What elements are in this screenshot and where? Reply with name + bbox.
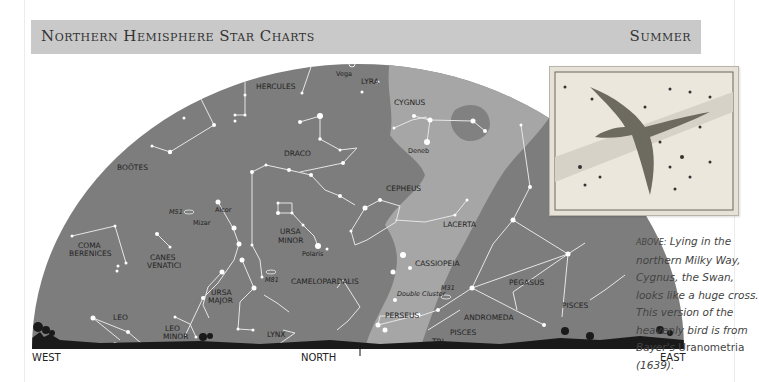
svg-text:VENATICI: VENATICI [147, 261, 181, 270]
svg-text:DRACO: DRACO [284, 149, 311, 158]
svg-text:LYNX: LYNX [267, 330, 286, 339]
caption-lead: Above: [636, 238, 666, 247]
direction-west: WEST [32, 352, 61, 363]
svg-text:BERENICES: BERENICES [69, 249, 112, 258]
svg-text:PERSEUS: PERSEUS [385, 311, 419, 320]
svg-text:Alcor: Alcor [215, 206, 232, 214]
svg-text:M51: M51 [169, 208, 183, 216]
svg-text:CAMELOPARDALIS: CAMELOPARDALIS [291, 277, 359, 286]
svg-text:ANDROMEDA: ANDROMEDA [464, 313, 514, 322]
svg-text:M81: M81 [265, 276, 279, 284]
svg-text:Double Cluster: Double Cluster [397, 290, 446, 298]
svg-text:Vega: Vega [336, 70, 352, 78]
svg-text:CYGNUS: CYGNUS [394, 98, 426, 107]
svg-text:PEGASUS: PEGASUS [509, 278, 544, 287]
image-caption: Above: Lying in the northern Milky Way, … [636, 233, 759, 374]
svg-text:PISCES: PISCES [450, 328, 476, 337]
direction-north: NORTH [301, 352, 336, 363]
svg-text:CASSIOPEIA: CASSIOPEIA [415, 259, 460, 268]
svg-text:Polaris: Polaris [302, 250, 324, 258]
svg-text:HERCULES: HERCULES [256, 82, 296, 91]
svg-text:URSA: URSA [280, 227, 302, 236]
svg-text:MAJOR: MAJOR [208, 296, 233, 305]
svg-text:MINOR: MINOR [163, 332, 188, 341]
swan-engraving-icon [550, 67, 738, 215]
svg-text:BOÖTES: BOÖTES [117, 163, 148, 172]
svg-text:Deneb: Deneb [408, 147, 429, 155]
caption-body: Lying in the northern Milky Way, Cygnus,… [636, 235, 759, 353]
svg-text:LACERTA: LACERTA [443, 220, 477, 229]
svg-text:MINOR: MINOR [278, 236, 303, 245]
svg-text:LYRA: LYRA [361, 77, 380, 86]
svg-text:CEPHEUS: CEPHEUS [386, 184, 421, 193]
caption-year: (1639). [636, 359, 674, 371]
caption-book-title: Uranometria [678, 341, 744, 353]
svg-text:Mizar: Mizar [193, 219, 211, 227]
svg-text:LEO: LEO [113, 313, 128, 322]
uranometria-cygnus-image [549, 66, 739, 216]
svg-text:TRI: TRI [431, 337, 444, 346]
svg-text:PISCES: PISCES [562, 301, 588, 310]
svg-text:M31: M31 [441, 284, 455, 292]
